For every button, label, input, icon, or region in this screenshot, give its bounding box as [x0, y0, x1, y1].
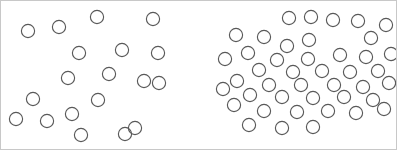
circle-marker — [151, 46, 164, 59]
circle-marker — [243, 88, 256, 101]
circle-marker — [282, 11, 295, 24]
circle-marker — [286, 65, 299, 78]
circle-marker — [61, 71, 74, 84]
circle-array-plot — [1, 1, 396, 149]
circle-marker — [366, 93, 379, 106]
circle-marker — [9, 112, 22, 125]
circle-marker — [72, 46, 85, 59]
circle-marker — [257, 104, 270, 117]
circle-marker — [40, 114, 53, 127]
circle-marker — [377, 102, 390, 115]
circle-marker — [91, 93, 104, 106]
stimulus-canvas — [0, 0, 397, 150]
circle-marker — [356, 80, 369, 93]
circle-marker — [229, 28, 242, 41]
circle-marker — [290, 105, 303, 118]
circle-marker — [118, 127, 131, 140]
circle-marker — [218, 52, 231, 65]
circle-marker — [252, 63, 265, 76]
circle-marker — [337, 90, 350, 103]
circle-marker — [257, 30, 270, 43]
circle-marker — [384, 47, 396, 60]
circle-marker — [52, 20, 65, 33]
circle-marker — [333, 48, 346, 61]
circle-marker — [262, 78, 275, 91]
circle-marker — [21, 24, 34, 37]
circle-marker — [227, 98, 240, 111]
circle-marker — [364, 31, 377, 44]
circle-marker — [359, 50, 372, 63]
circle-marker — [302, 33, 315, 46]
circle-marker — [280, 39, 293, 52]
circle-marker — [306, 91, 319, 104]
circle-marker — [241, 46, 254, 59]
circle-marker — [306, 120, 319, 133]
circle-marker — [216, 82, 229, 95]
circle-marker — [146, 12, 159, 25]
circle-marker — [65, 107, 78, 120]
circle-marker — [270, 53, 283, 66]
circle-marker — [115, 43, 128, 56]
circle-marker — [26, 92, 39, 105]
circle-marker — [275, 90, 288, 103]
circle-marker — [102, 67, 115, 80]
circle-marker — [230, 74, 243, 87]
circle-marker — [242, 118, 255, 131]
circle-marker — [301, 52, 314, 65]
circle-marker — [371, 64, 384, 77]
circle-marker — [326, 13, 339, 26]
circle-marker — [74, 128, 87, 141]
circle-marker — [351, 14, 364, 27]
circle-marker — [315, 64, 328, 77]
circle-marker — [128, 121, 141, 134]
circle-marker — [152, 76, 165, 89]
circle-marker — [349, 106, 362, 119]
circle-marker — [321, 104, 334, 117]
circle-marker — [379, 18, 392, 31]
circle-marker — [382, 76, 395, 89]
circle-marker — [90, 10, 103, 23]
circle-marker — [294, 78, 307, 91]
right-dense-array-group — [216, 10, 396, 134]
circle-marker — [343, 65, 356, 78]
circle-marker — [137, 74, 150, 87]
circle-marker — [327, 78, 340, 91]
circle-marker — [304, 10, 317, 23]
left-sparse-array-group — [9, 10, 165, 141]
circle-marker — [275, 121, 288, 134]
